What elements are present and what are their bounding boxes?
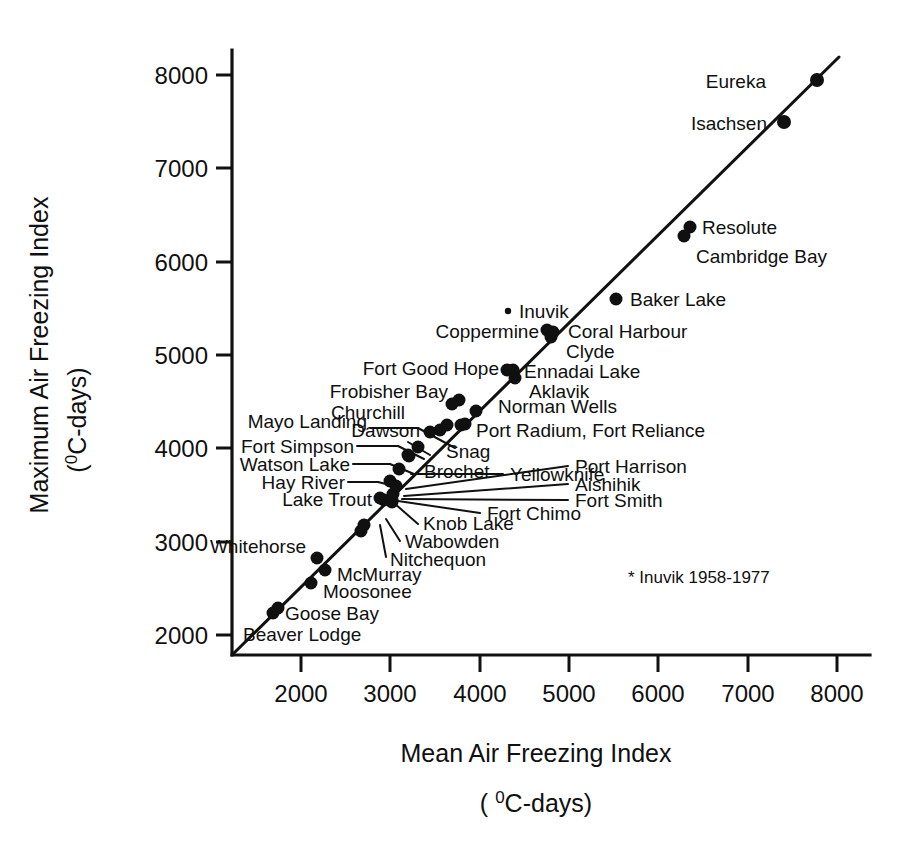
x-tick-label: 4000 — [453, 680, 506, 707]
x-tick-label: 8000 — [810, 680, 863, 707]
data-point[interactable] — [441, 419, 454, 432]
point-label-whitehorse: Whitehorse — [210, 536, 306, 557]
data-point[interactable] — [610, 293, 623, 306]
point-label-coral-harbour: Coral Harbour — [568, 321, 688, 342]
data-point[interactable] — [412, 441, 425, 454]
y-axis-units: (0C-days) — [62, 367, 92, 472]
point-label-moosonee: Moosonee — [323, 581, 412, 602]
data-point[interactable] — [501, 364, 514, 377]
point-label-fort-good-hope: Fort Good Hope — [363, 358, 499, 379]
y-tick-label: 6000 — [155, 249, 208, 276]
degree-symbol-y: 0 — [62, 455, 81, 464]
x-axis-tick-labels: 2000 3000 4000 5000 6000 7000 8000 — [274, 680, 863, 707]
x-tick-label: 7000 — [721, 680, 774, 707]
data-point[interactable] — [319, 564, 332, 577]
point-label-fort-smith: Fort Smith — [575, 490, 663, 511]
data-point[interactable] — [374, 492, 387, 505]
data-point[interactable] — [541, 324, 554, 337]
data-point[interactable] — [470, 405, 483, 418]
y-tick-label: 7000 — [155, 155, 208, 182]
x-tick-label: 3000 — [363, 680, 416, 707]
point-label-lake-trout: Lake Trout — [282, 489, 372, 510]
x-axis-ticks — [301, 655, 837, 672]
data-point-inuvik[interactable] — [505, 308, 511, 314]
data-point[interactable] — [358, 519, 371, 532]
x-axis-title: Mean Air Freezing Index — [401, 739, 672, 767]
point-label-ennadai-lake: Ennadai Lake — [524, 361, 640, 382]
point-label-port-radium-fort-reliance: Port Radium, Fort Reliance — [476, 420, 705, 441]
x-tick-label: 6000 — [631, 680, 684, 707]
data-point[interactable] — [390, 480, 403, 493]
data-point[interactable] — [305, 577, 318, 590]
data-point[interactable] — [424, 426, 437, 439]
y-tick-label: 3000 — [155, 529, 208, 556]
point-label-baker-lake: Baker Lake — [630, 289, 726, 310]
x-tick-label: 5000 — [542, 680, 595, 707]
data-point[interactable] — [311, 552, 324, 565]
point-label-resolute: Resolute — [702, 217, 777, 238]
point-label-cambridge-bay: Cambridge Bay — [696, 246, 827, 267]
y-tick-label: 8000 — [155, 62, 208, 89]
point-label-isachsen: Isachsen — [691, 113, 767, 134]
y-tick-label: 5000 — [155, 342, 208, 369]
point-label-snag: Snag — [446, 441, 490, 462]
data-point[interactable] — [393, 463, 406, 476]
data-point[interactable] — [810, 73, 824, 87]
point-label-clyde: Clyde — [566, 341, 615, 362]
scatter-plot: 8000 7000 6000 5000 4000 3000 2000 2000 … — [0, 0, 914, 845]
y-axis-title: Maximum Air Freezing Index — [25, 196, 53, 513]
degree-symbol-x: 0 — [495, 788, 504, 807]
point-label-brochet: Brochet — [424, 461, 490, 482]
data-point[interactable] — [453, 394, 466, 407]
point-label-frobisher-bay: Frobisher Bay — [330, 381, 449, 402]
point-label-goose-bay: Goose Bay — [285, 603, 379, 624]
data-point[interactable] — [459, 418, 472, 431]
point-label-beaver-lodge: Beaver Lodge — [243, 624, 361, 645]
chart-canvas: 8000 7000 6000 5000 4000 3000 2000 2000 … — [0, 0, 914, 845]
point-label-eureka: Eureka — [706, 71, 767, 92]
point-label-mayo-landing: Mayo Landing — [248, 411, 367, 432]
data-point[interactable] — [684, 221, 697, 234]
y-tick-label: 2000 — [155, 622, 208, 649]
data-point[interactable] — [777, 115, 791, 129]
point-labels: Eureka Isachsen Resolute Cambridge Bay B… — [210, 71, 828, 645]
y-tick-label: 4000 — [155, 435, 208, 462]
footnote-inuvik: * Inuvik 1958-1977 — [628, 568, 770, 587]
y-axis-tick-labels: 8000 7000 6000 5000 4000 3000 2000 — [155, 62, 208, 649]
point-label-inuvik: Inuvik — [519, 301, 569, 322]
data-point[interactable] — [272, 602, 285, 615]
x-tick-label: 2000 — [274, 680, 327, 707]
point-label-coppermine: Coppermine — [436, 321, 540, 342]
point-label-norman-wells: Norman Wells — [498, 396, 617, 417]
x-axis-units: ( 0C-days) — [480, 788, 592, 818]
